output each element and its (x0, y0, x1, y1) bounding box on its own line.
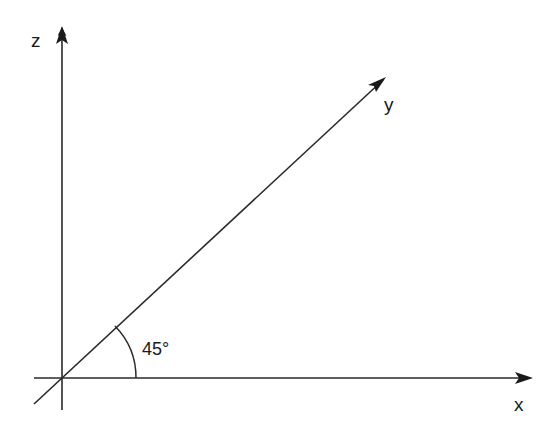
z-axis-label: z (31, 30, 41, 51)
y-axis-label: y (384, 94, 394, 115)
axes-diagram: z x y 45° (0, 0, 554, 429)
y-axis (34, 80, 383, 404)
angle-arc (115, 326, 136, 378)
angle-label: 45° (142, 339, 169, 359)
y-arrowhead-icon (368, 77, 386, 92)
x-axis-label: x (514, 394, 524, 415)
